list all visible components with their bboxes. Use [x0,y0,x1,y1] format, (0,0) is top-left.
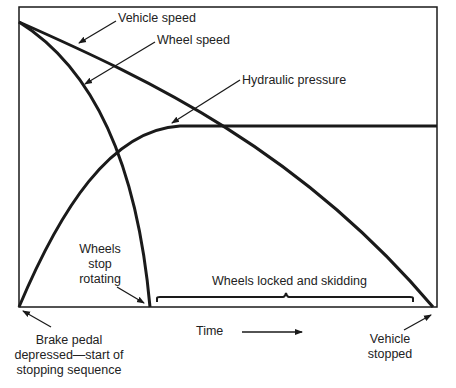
brake-pedal-arrow [23,311,51,327]
wheel-speed-label: Wheel speed [157,33,230,48]
wheels-stop-arrow [117,287,144,303]
vehicle-stopped-label: Vehicle stopped [360,332,420,362]
brake-pedal-label: Brake pedal depressed—start of stopping … [14,333,124,378]
vehicle-stopped-arrow [404,315,431,330]
wheels-stop-rotating-label: Wheels stop rotating [70,242,130,287]
locked-skidding-label: Wheels locked and skidding [212,274,367,289]
skidding-brace [157,293,413,302]
diagram-canvas [0,0,456,388]
hydraulic-pressure-label: Hydraulic pressure [242,73,346,88]
vehicle-speed-arrow [79,21,116,43]
time-axis-label: Time [196,324,223,339]
wheel-speed-arrow [85,42,155,84]
vehicle-speed-label: Vehicle speed [118,11,196,26]
